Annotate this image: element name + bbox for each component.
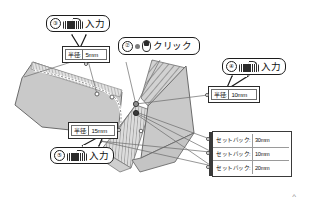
radius-field-10mm[interactable]: 半径: 10mm: [208, 86, 260, 103]
callout-2-number: ②: [122, 41, 133, 52]
screenshot-canvas: ③ 入力 ② クリック ④ 入力 ⑤ 入力: [0, 0, 310, 205]
callout-4-action: 入力: [261, 62, 280, 72]
radius-field-5mm-label: 半径:: [66, 50, 83, 59]
cursor-dot-icon: [135, 44, 140, 49]
keyboard-icon: [63, 19, 83, 29]
setback-row-1-handle[interactable]: [206, 137, 210, 141]
keyboard-icon: [239, 62, 259, 72]
radius-field-5mm-handle[interactable]: [84, 62, 88, 66]
callout-5-number: ⑤: [54, 150, 65, 161]
callout-5[interactable]: ⑤ 入力: [50, 147, 114, 164]
radius-field-15mm-handle[interactable]: [117, 128, 121, 132]
callout-5-action: 入力: [89, 151, 108, 161]
table-row[interactable]: セットバック: 30mm: [213, 134, 289, 148]
callout-2-action: クリック: [153, 41, 192, 51]
setback-table[interactable]: セットバック: 30mm セットバック: 10mm セットバック: 20mm: [212, 131, 292, 177]
table-row[interactable]: セットバック: 10mm: [213, 148, 289, 162]
setback-row-3-handle[interactable]: [206, 165, 210, 169]
setback-row-1-label: セットバック:: [213, 136, 252, 144]
setback-row-3-value[interactable]: 20mm: [252, 161, 271, 174]
radius-field-10mm-handle[interactable]: [205, 93, 209, 97]
scroll-caret-icon[interactable]: ^: [292, 193, 296, 201]
setback-row-2-label: セットバック:: [213, 150, 252, 158]
setback-row-2-handle[interactable]: [206, 151, 210, 155]
radius-field-10mm-label: 半径:: [212, 90, 229, 99]
table-row[interactable]: セットバック: 20mm: [213, 161, 289, 174]
keyboard-icon: [67, 151, 87, 161]
callout-4[interactable]: ④ 入力: [222, 58, 286, 75]
callout-2[interactable]: ② クリック: [118, 37, 200, 55]
callout-4-number: ④: [226, 61, 237, 72]
setback-row-3-label: セットバック:: [213, 164, 252, 172]
radius-field-5mm-value[interactable]: 5mm: [83, 52, 99, 58]
radius-field-15mm[interactable]: 半径: 15mm: [68, 122, 118, 139]
callout-3-action: 入力: [85, 19, 104, 29]
radius-field-15mm-value[interactable]: 15mm: [89, 128, 108, 134]
setback-row-2-value[interactable]: 10mm: [252, 148, 271, 161]
mouse-icon: [142, 40, 151, 52]
callout-3-number: ③: [50, 18, 61, 29]
radius-field-10mm-value[interactable]: 10mm: [229, 92, 248, 98]
radius-field-5mm[interactable]: 半径: 5mm: [62, 46, 110, 63]
radius-field-15mm-label: 半径:: [72, 126, 89, 135]
setback-row-1-value[interactable]: 30mm: [252, 134, 271, 147]
callout-3[interactable]: ③ 入力: [46, 15, 110, 32]
